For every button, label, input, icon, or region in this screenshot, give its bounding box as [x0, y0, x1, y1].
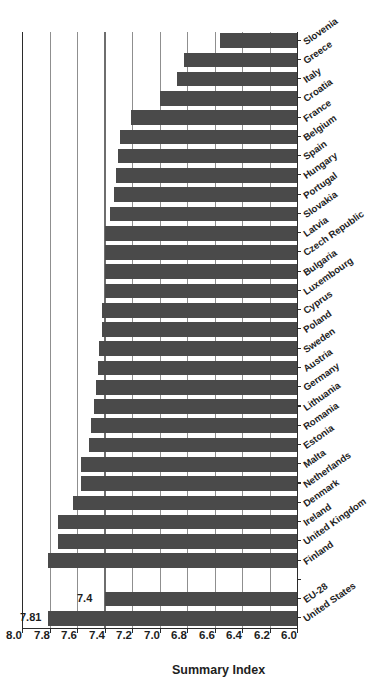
bar-united-kingdom — [58, 534, 297, 549]
bar-malta — [81, 457, 297, 472]
plot-inner: 8.07.87.67.47.27.06.86.66.46.26.0United … — [22, 32, 297, 628]
y-axis-label: 6.0 — [281, 629, 297, 641]
bar-portugal — [114, 187, 297, 202]
bar-chart-figure: 8.07.87.67.47.27.06.86.66.46.26.0United … — [0, 0, 371, 685]
bar-estonia — [89, 438, 297, 453]
y-tick-mark — [187, 628, 188, 633]
rotated-figure-wrapper: 8.07.87.67.47.27.06.86.66.46.26.0United … — [0, 0, 371, 685]
bar-hungary — [116, 168, 298, 183]
y-axis-label: 8.0 — [6, 629, 22, 641]
bar-poland — [102, 322, 297, 337]
bar-eu-28 — [105, 592, 298, 607]
y-tick-mark — [77, 628, 78, 633]
y-axis-label: 7.4 — [89, 629, 105, 641]
bar-finland — [48, 553, 297, 568]
bar-latvia — [105, 226, 298, 241]
value-callout-eu-28: 7.4 — [77, 592, 92, 604]
bar-belgium — [120, 130, 297, 145]
value-callout-united-states: 7.81 — [20, 611, 41, 623]
y-tick-mark — [132, 628, 133, 633]
gridline-8-0 — [22, 32, 23, 628]
bar-lithuania — [94, 399, 298, 414]
y-axis-label: 7.0 — [144, 629, 160, 641]
bar-italy — [177, 72, 297, 87]
y-tick-mark — [242, 628, 243, 633]
bar-romania — [91, 418, 297, 433]
bar-ireland — [58, 515, 297, 530]
chart-page: 8.07.87.67.47.27.06.86.66.46.26.0United … — [0, 0, 371, 685]
y-axis-label: 6.6 — [199, 629, 215, 641]
y-axis-label: 6.4 — [226, 629, 242, 641]
bar-netherlands — [81, 476, 297, 491]
bar-france — [131, 110, 297, 125]
y-tick-mark — [22, 628, 23, 633]
bar-slovakia — [110, 207, 297, 222]
bar-czech-republic — [105, 245, 298, 260]
bar-cyprus — [102, 303, 297, 318]
bar-spain — [118, 149, 297, 164]
bar-germany — [96, 380, 297, 395]
bar-luxembourg — [105, 284, 298, 299]
bar-denmark — [73, 496, 297, 511]
bar-united-states — [48, 611, 297, 626]
plot-area: 8.07.87.67.47.27.06.86.66.46.26.0United … — [22, 32, 297, 629]
y-axis-label: 7.6 — [61, 629, 77, 641]
bar-austria — [98, 361, 297, 376]
y-axis-label: 7.2 — [116, 629, 132, 641]
axis-title: Summary Index — [172, 663, 265, 677]
category-axis-baseline — [297, 32, 298, 628]
bar-bulgaria — [105, 264, 298, 279]
bar-greece — [184, 53, 297, 68]
gridline-7-8 — [50, 32, 51, 628]
y-tick-mark — [297, 628, 298, 633]
bar-croatia — [160, 91, 298, 106]
y-axis-label: 6.8 — [171, 629, 187, 641]
bar-sweden — [99, 341, 297, 356]
y-axis-label: 6.2 — [254, 629, 270, 641]
bar-slovenia — [220, 33, 297, 48]
y-axis-label: 7.8 — [34, 629, 50, 641]
